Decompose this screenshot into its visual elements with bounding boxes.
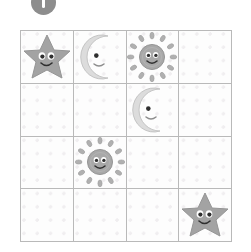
badge-number-mark: [42, 0, 45, 8]
circle-number-badge-icon[interactable]: [31, 0, 56, 15]
grid-cell-r3c1[interactable]: [21, 137, 74, 190]
puzzle-grid: [20, 30, 232, 242]
grid-cell-r2c3[interactable]: [127, 84, 180, 137]
grid-cell-r3c4[interactable]: [179, 137, 232, 190]
grid-cell-r1c2[interactable]: [74, 31, 127, 84]
smiling-star-icon: [181, 192, 229, 238]
smiling-sun-icon: [127, 32, 177, 82]
grid-cell-r2c2[interactable]: [74, 84, 127, 137]
smiling-star-icon: [23, 34, 71, 80]
grid-cell-r4c1[interactable]: [21, 189, 74, 242]
grid-cell-r1c1[interactable]: [21, 31, 74, 84]
grid-cell-r2c4[interactable]: [179, 84, 232, 137]
grid-cell-r3c3[interactable]: [127, 137, 180, 190]
smiling-sun-icon: [75, 137, 125, 187]
grid-cell-r1c4[interactable]: [179, 31, 232, 84]
grid-cell-r3c2[interactable]: [74, 137, 127, 190]
header-badge-area: [0, 0, 251, 26]
grid-cell-r1c3[interactable]: [127, 31, 180, 84]
grid-cell-r4c3[interactable]: [127, 189, 180, 242]
grid-cell-r4c2[interactable]: [74, 189, 127, 242]
smiling-crescent-moon-icon: [78, 34, 122, 80]
grid-cell-r2c1[interactable]: [21, 84, 74, 137]
smiling-crescent-moon-icon: [130, 87, 174, 133]
grid-cell-r4c4[interactable]: [179, 189, 232, 242]
